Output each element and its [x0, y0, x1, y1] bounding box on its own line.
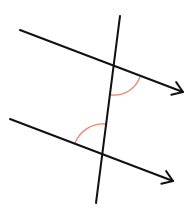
upper-angle-arc: [111, 77, 140, 95]
lower-angle-arc: [75, 124, 105, 143]
transversal-line: [96, 16, 120, 203]
diagram-svg: [0, 0, 195, 211]
parallel-lines-diagram: [0, 0, 195, 211]
lower-parallel-line: [10, 119, 173, 181]
upper-parallel-line: [20, 30, 183, 92]
